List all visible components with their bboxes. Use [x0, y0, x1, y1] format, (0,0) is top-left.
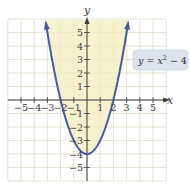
y-tick-label: 5: [77, 27, 83, 38]
x-tick-label: 5: [150, 102, 156, 113]
y-tick-label: −2: [69, 122, 83, 133]
equation-label-text: y = x2 − 4: [137, 54, 187, 66]
x-tick-label: 4: [137, 102, 143, 113]
y-tick-label: 3: [77, 54, 83, 65]
equation-label: y = x2 − 4: [124, 50, 188, 70]
y-tick-label: −3: [69, 135, 83, 146]
y-tick-label: −4: [69, 149, 83, 160]
x-tick-label: −3: [40, 102, 54, 113]
x-tick-label: −5: [14, 102, 28, 113]
x-tick-label: 2: [110, 102, 116, 113]
x-tick-label: −2: [54, 102, 68, 113]
y-tick-label: 4: [77, 41, 83, 52]
x-axis-label: x: [167, 94, 174, 107]
y-axis-label: y: [83, 4, 91, 17]
y-tick-label: 2: [77, 68, 83, 79]
x-tick-label: 3: [124, 102, 130, 113]
y-tick-label: −5: [69, 162, 83, 173]
y-tick-label: 1: [77, 81, 83, 92]
y-tick-label: −1: [69, 108, 83, 119]
x-tick-label: 1: [97, 102, 103, 113]
x-tick-label: −4: [27, 102, 41, 113]
parabola-graph: y = x2 − 4 −5−4−3−2−11234554321−1−2−3−4−…: [0, 0, 190, 189]
